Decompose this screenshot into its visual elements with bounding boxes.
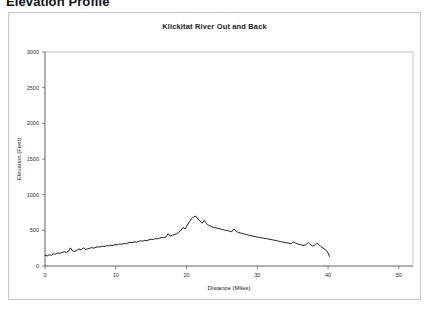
chart-frame: Klickitat River Out and Back 05001000150… [8, 12, 421, 300]
x-axis-ticks: 01020304050 [43, 266, 401, 278]
x-tick-label: 30 [254, 272, 260, 278]
y-tick-label: 1500 [27, 156, 39, 162]
y-tick-label: 500 [30, 227, 39, 233]
plot-border [45, 52, 413, 266]
y-tick-label: 2000 [27, 120, 39, 126]
elevation-profile-chart: 050010001500200025003000 01020304050 Dis… [9, 13, 422, 301]
x-tick-label: 40 [325, 272, 331, 278]
x-tick-label: 20 [183, 272, 189, 278]
y-tick-label: 0 [36, 263, 39, 269]
y-tick-label: 3000 [27, 49, 39, 55]
y-axis-title: Elevation (Feet) [16, 138, 22, 180]
y-axis-ticks: 050010001500200025003000 [27, 49, 45, 269]
x-tick-label: 0 [43, 272, 46, 278]
x-tick-label: 50 [396, 272, 402, 278]
x-axis-title: Distance (Miles) [207, 285, 250, 291]
y-tick-label: 1000 [27, 192, 39, 198]
plot-area: 050010001500200025003000 01020304050 Dis… [9, 13, 422, 301]
y-tick-label: 2500 [27, 85, 39, 91]
page-title: Elevation Profile [6, 0, 110, 9]
x-tick-label: 10 [113, 272, 119, 278]
